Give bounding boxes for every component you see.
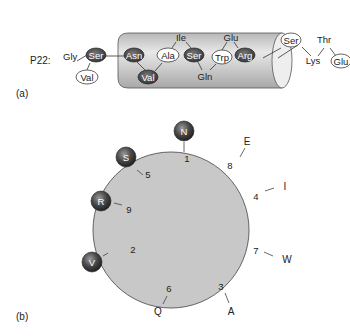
position-4: 4: [253, 191, 258, 202]
residue-ser: Ser: [187, 50, 202, 61]
residue-gln: Gln: [198, 71, 213, 82]
residue-ile: Ile: [176, 32, 186, 43]
residue-val: Val: [141, 72, 154, 83]
residue-ser: Ser: [89, 50, 104, 61]
residue-val: Val: [80, 72, 93, 83]
residue-trp: Trp: [215, 52, 229, 63]
residue-gly: Gly: [63, 51, 78, 62]
residue-ala: Ala: [161, 50, 175, 61]
position-1: 1: [184, 153, 189, 164]
panel-b: 1 8 4 7 3 6 2 9 5 N S R V E I W A Q (b): [16, 121, 292, 322]
position-2: 2: [130, 244, 135, 255]
panel-b-label: (b): [16, 311, 28, 322]
residue-e: E: [244, 136, 251, 147]
residue-s: S: [123, 152, 129, 163]
residue-glu: Glu: [334, 56, 349, 67]
position-9: 9: [126, 204, 131, 215]
helix-diagram: P22: (a) Gly Ser Val Asn Val Ala Ile Ser…: [0, 0, 350, 336]
panel-a: P22: (a) Gly Ser Val Asn Val Ala Ile Ser…: [16, 32, 350, 99]
position-8: 8: [227, 160, 232, 171]
residue-v: V: [89, 257, 96, 268]
residue-asn: Asn: [126, 50, 142, 61]
residue-n: N: [181, 126, 188, 137]
residue-i: I: [284, 181, 287, 192]
position-6: 6: [166, 283, 171, 294]
residue-q: Q: [154, 306, 162, 317]
position-7: 7: [253, 245, 258, 256]
residue-arg: Arg: [238, 50, 253, 61]
position-5: 5: [145, 169, 150, 180]
residue-r: R: [98, 196, 105, 207]
residue-a: A: [228, 306, 235, 317]
panel-a-label: (a): [16, 88, 28, 99]
residue-thr: Thr: [317, 34, 331, 45]
residue-lys: Lys: [306, 55, 321, 66]
residue-ser: Ser: [284, 35, 299, 46]
position-3: 3: [218, 281, 223, 292]
residue-w: W: [282, 254, 292, 265]
residue-glu: Glu: [224, 32, 239, 43]
peptide-name: P22:: [30, 55, 51, 66]
